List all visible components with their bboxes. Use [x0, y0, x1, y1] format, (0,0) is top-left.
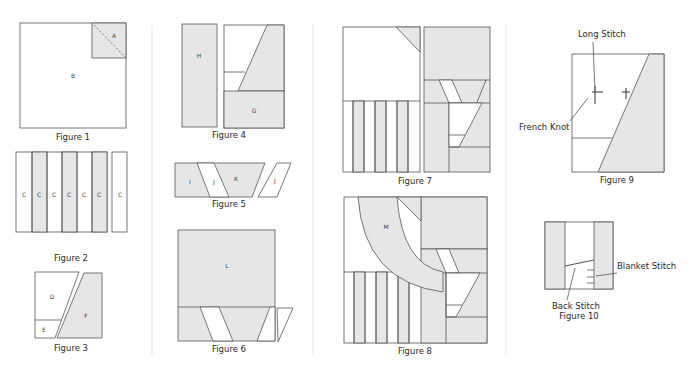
figure-caption-4: Figure 4	[212, 130, 246, 140]
figure-10	[545, 222, 617, 300]
piece-label-g: G	[252, 107, 257, 114]
figure-4	[182, 24, 284, 128]
figure-9	[570, 42, 664, 172]
figure-caption-2: Figure 2	[54, 253, 88, 263]
figure-caption-8: Figure 8	[398, 346, 432, 356]
figure-6	[178, 230, 293, 342]
piece-label-c: C	[82, 191, 86, 198]
piece-label-c: C	[67, 191, 71, 198]
figure-caption-5: Figure 5	[212, 199, 246, 209]
piece-label-j: J	[273, 177, 276, 185]
piece-label-h: H	[197, 52, 202, 59]
figure-caption-1: Figure 1	[56, 132, 90, 142]
figure-caption-7: Figure 7	[398, 176, 432, 186]
annotation-back-stitch: Back Stitch	[552, 301, 600, 311]
piece-label-c: C	[97, 191, 101, 198]
annotation-french-knot: French Knot	[519, 122, 570, 132]
figure-caption-9: Figure 9	[600, 175, 634, 185]
figure-8	[344, 197, 487, 343]
piece-label-i: I	[189, 178, 191, 185]
annotation-long-stitch: Long Stitch	[578, 29, 626, 39]
quilt-diagram-sheet: A B Figure 1 C C C C C C C Figure 2 D E …	[0, 0, 693, 368]
piece-label-f: F	[84, 312, 88, 319]
piece-label-c: C	[118, 191, 122, 198]
piece-label-j: J	[212, 178, 215, 186]
figure-caption-10: Figure 10	[559, 311, 598, 321]
piece-label-e: E	[42, 326, 46, 333]
figure-caption-3: Figure 3	[54, 343, 88, 353]
piece-label-c: C	[52, 191, 56, 198]
figure-7	[343, 27, 490, 172]
piece-label-c: C	[22, 191, 26, 198]
annotation-blanket-stitch: Blanket Stitch	[617, 261, 676, 271]
piece-label-c: C	[37, 191, 41, 198]
figure-caption-6: Figure 6	[212, 344, 246, 354]
piece-label-m: M	[383, 223, 388, 230]
piece-label-d: D	[50, 293, 55, 300]
piece-label-b: B	[71, 72, 75, 79]
figure-2	[16, 152, 127, 232]
